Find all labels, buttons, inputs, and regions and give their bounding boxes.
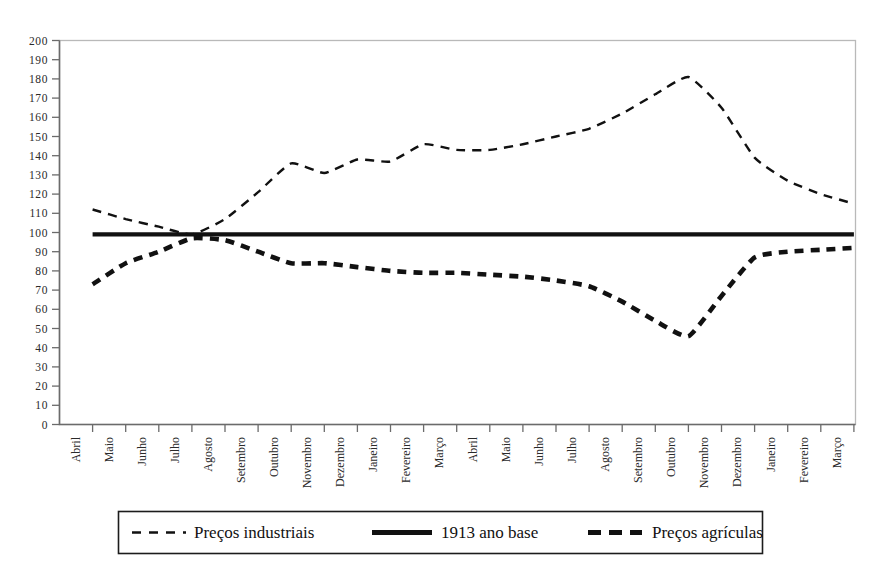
xtick-label: Fevereiro [797, 437, 811, 483]
svg-text:170: 170 [29, 92, 48, 104]
xtick-label: Setembro [234, 437, 248, 483]
legend-label-agriculas: Preços agrículas [652, 523, 763, 542]
legend: Preços industriais 1913 ano base Preços … [119, 512, 763, 554]
svg-text:140: 140 [29, 150, 48, 162]
xtick-label: Dezembro [333, 437, 347, 487]
xtick-label: Abril [466, 436, 480, 462]
xtick-label: Junho [532, 437, 546, 466]
chart-page: 0 10 20 30 40 50 60 70 80 90 100 110 120 [0, 0, 879, 580]
x-axis-ticks [93, 425, 854, 433]
xtick-label: Junho [135, 437, 149, 466]
xtick-label: Setembro [631, 437, 645, 483]
xtick-label: Março [830, 437, 844, 468]
svg-text:180: 180 [29, 73, 48, 85]
svg-text:80: 80 [35, 265, 48, 277]
xtick-label: Novembro [300, 437, 314, 488]
svg-text:90: 90 [35, 246, 48, 258]
xtick-label: Março [432, 437, 446, 468]
xtick-label: Julho [565, 437, 579, 463]
svg-text:10: 10 [35, 399, 48, 411]
xtick-label: Abril [69, 436, 83, 462]
svg-text:40: 40 [35, 342, 48, 354]
xtick-label: Dezembro [730, 437, 744, 487]
svg-text:130: 130 [29, 169, 48, 181]
svg-text:100: 100 [29, 227, 48, 239]
svg-text:110: 110 [29, 207, 48, 219]
series-line-precos-industriais [93, 77, 854, 235]
svg-text:70: 70 [35, 284, 48, 296]
x-axis-labels: Abril Maio Junho Julho Agosto Setembro O… [69, 436, 844, 488]
data-series-layer [93, 77, 854, 336]
xtick-label: Maio [102, 437, 116, 462]
svg-text:200: 200 [29, 35, 48, 47]
legend-label-ano-base: 1913 ano base [441, 523, 538, 542]
svg-text:50: 50 [35, 323, 48, 335]
line-chart-figure: 0 10 20 30 40 50 60 70 80 90 100 110 120 [0, 0, 879, 580]
xtick-label: Julho [168, 437, 182, 463]
y-axis-ticks: 0 10 20 30 40 50 60 70 80 90 100 110 120 [29, 35, 60, 431]
legend-label-industriais: Preços industriais [194, 523, 314, 542]
xtick-label: Agosto [201, 437, 215, 472]
svg-text:120: 120 [29, 188, 48, 200]
xtick-label: Janeiro [764, 437, 778, 472]
xtick-label: Agosto [598, 437, 612, 472]
series-line-precos-agriculas [93, 238, 854, 336]
xtick-label: Outubro [664, 437, 678, 477]
xtick-label: Janeiro [366, 437, 380, 472]
svg-text:30: 30 [35, 361, 48, 373]
svg-text:0: 0 [42, 419, 48, 431]
svg-text:160: 160 [29, 111, 48, 123]
svg-text:190: 190 [29, 54, 48, 66]
xtick-label: Outubro [267, 437, 281, 477]
svg-text:20: 20 [35, 380, 48, 392]
xtick-label: Maio [499, 437, 513, 462]
svg-text:150: 150 [29, 131, 48, 143]
xtick-label: Fevereiro [399, 437, 413, 483]
xtick-label: Novembro [697, 437, 711, 488]
svg-text:60: 60 [35, 303, 48, 315]
